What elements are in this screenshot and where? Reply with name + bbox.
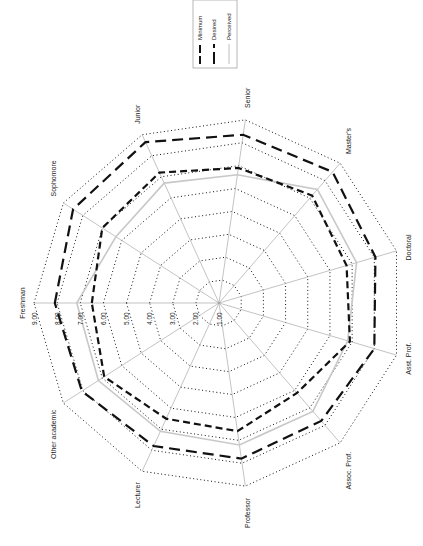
legend-label-minimum: Minimum: [197, 16, 203, 40]
tick-label: 8.00: [54, 312, 61, 325]
series-desired: [55, 135, 376, 459]
tick-label: 3.00: [169, 312, 176, 325]
tick-label: 5.00: [123, 312, 130, 325]
axis-label: Master's: [345, 127, 352, 154]
axis-label: Sophomore: [50, 160, 58, 196]
legend-label-desired: Desired: [211, 19, 217, 40]
axis-label: Lecturer: [134, 482, 141, 508]
legend-label-perceived: Perceived: [226, 13, 232, 40]
axis-line: [219, 303, 397, 355]
series: [55, 135, 376, 459]
axis-line: [219, 120, 245, 303]
tick-label: 6.00: [100, 312, 107, 325]
axis-label: Professor: [244, 497, 251, 528]
axis-label: Doctoral: [405, 234, 412, 261]
axis-label: Other academic: [50, 409, 57, 459]
tick-label: 7.00: [77, 312, 84, 325]
axis-line: [219, 251, 397, 303]
axis-line: [142, 135, 219, 303]
tick-label: 2.00: [192, 312, 199, 325]
axis-label: Freshman: [19, 287, 26, 319]
axis-label: Junior: [134, 104, 141, 124]
tick-label: 4.00: [146, 312, 153, 325]
axis-line: [219, 303, 340, 443]
axis-label: Assoc. Prof.: [345, 452, 352, 490]
axis-line: [63, 203, 219, 303]
tick-label: 9.00: [31, 312, 38, 325]
series-minimum: [92, 168, 350, 431]
tick-label: 1.00: [216, 312, 223, 325]
tick-labels: 1.002.003.004.005.006.007.008.009.00: [31, 312, 223, 325]
axis-label: Senior: [244, 87, 251, 108]
series-perceived: [77, 175, 357, 445]
radar-chart: 1.002.003.004.005.006.007.008.009.00 Fre…: [0, 0, 423, 546]
axes: [34, 120, 397, 486]
axis-label: Asst. Prof.: [405, 342, 412, 374]
legend: Minimum Desired Perceived: [193, 0, 237, 68]
